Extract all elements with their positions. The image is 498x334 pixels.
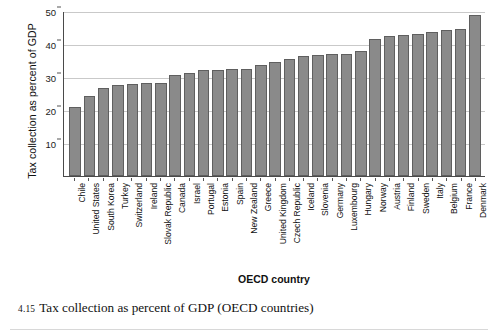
- x-axis-tick-mark: [260, 178, 261, 181]
- x-axis-tick-mark: [446, 178, 447, 181]
- x-axis-tick-mark: [346, 178, 347, 181]
- x-axis-tick-mark: [389, 178, 390, 181]
- x-axis-tick: United Kingdom: [269, 178, 281, 270]
- x-axis-tick: Germany: [326, 178, 338, 270]
- bar: [127, 84, 139, 176]
- x-axis-tick: Portugal: [197, 178, 209, 270]
- x-axis-tick: Slovak Republic: [154, 178, 166, 270]
- bar: [384, 36, 396, 176]
- bar: [269, 62, 281, 176]
- bar: [155, 83, 167, 176]
- x-axis-tick: Iceland: [297, 178, 309, 270]
- bar: [441, 30, 453, 176]
- y-axis-tick-labels: 1020304050: [38, 0, 60, 200]
- x-axis-tick-mark: [117, 178, 118, 181]
- x-axis-tick: Slovenia: [312, 178, 324, 270]
- bar: [412, 34, 424, 176]
- x-axis-tick: Italy: [426, 178, 438, 270]
- x-axis-tick: Greece: [254, 178, 266, 270]
- x-axis-tick-mark: [360, 178, 361, 181]
- x-axis-tick: Chile: [68, 178, 80, 270]
- x-axis-tick: Austria: [383, 178, 395, 270]
- x-axis-tick-mark: [275, 178, 276, 181]
- bar: [312, 55, 324, 176]
- x-axis-tick: Norway: [369, 178, 381, 270]
- y-axis-tick-mark: [57, 73, 61, 74]
- x-axis-tick-mark: [203, 178, 204, 181]
- plot-area: [63, 12, 485, 177]
- bar: [426, 32, 438, 176]
- y-axis-tick-label: 20: [45, 106, 56, 117]
- bar: [112, 85, 124, 176]
- bar: [469, 15, 481, 176]
- x-axis-tick-mark: [317, 178, 318, 181]
- y-axis-tick-mark: [57, 139, 61, 140]
- x-axis-tick: Hungary: [355, 178, 367, 270]
- page-divider: [10, 329, 488, 330]
- x-axis-tick: Spain: [226, 178, 238, 270]
- x-axis-tick: New Zealand: [240, 178, 252, 270]
- x-axis-tick: Switzerland: [126, 178, 138, 270]
- bar: [98, 88, 110, 176]
- x-axis-tick-mark: [403, 178, 404, 181]
- bar: [84, 96, 96, 176]
- x-axis-tick: France: [455, 178, 467, 270]
- x-axis-tick: Czech Republic: [283, 178, 295, 270]
- x-axis-tick: Sweden: [412, 178, 424, 270]
- figure-caption: 4.15Tax collection as percent of GDP (OE…: [18, 300, 480, 316]
- y-axis-tick-mark: [57, 7, 61, 8]
- x-axis-tick: United States: [83, 178, 95, 270]
- bar: [455, 29, 467, 176]
- caption-number: 4.15: [18, 304, 35, 314]
- caption-text: Tax collection as percent of GDP (OECD c…: [39, 300, 313, 315]
- x-axis-tick-mark: [375, 178, 376, 181]
- x-axis-tick-mark: [332, 178, 333, 181]
- bar: [398, 35, 410, 176]
- bar: [226, 69, 238, 176]
- bar: [198, 70, 210, 176]
- x-axis-tick: Canada: [169, 178, 181, 270]
- x-axis-tick: Belgium: [441, 178, 453, 270]
- x-axis-tick-mark: [174, 178, 175, 181]
- x-axis-tick-mark: [131, 178, 132, 181]
- bar: [284, 59, 296, 176]
- x-axis-tick-mark: [461, 178, 462, 181]
- x-axis-tick-mark: [217, 178, 218, 181]
- x-axis-tick: Israel: [183, 178, 195, 270]
- bar: [169, 75, 181, 176]
- bar: [326, 54, 338, 176]
- bar: [341, 54, 353, 176]
- x-axis-tick: Denmark: [469, 178, 481, 270]
- y-axis-tick-label: 30: [45, 73, 56, 84]
- bar: [184, 73, 196, 176]
- x-axis-tick-mark: [189, 178, 190, 181]
- x-axis-tick-label: Denmark: [479, 183, 488, 218]
- x-axis-tick: Ireland: [140, 178, 152, 270]
- y-axis-tick-label: 40: [45, 40, 56, 51]
- x-axis-tick: Turkey: [111, 178, 123, 270]
- x-axis-tick-labels: ChileUnited StatesSouth KoreaTurkeySwitz…: [63, 178, 485, 270]
- x-axis-tick-mark: [232, 178, 233, 181]
- x-axis-tick: Luxembourg: [340, 178, 352, 270]
- x-axis-tick-mark: [74, 178, 75, 181]
- x-axis-tick-mark: [418, 178, 419, 181]
- bar: [69, 107, 81, 176]
- x-axis-tick-mark: [289, 178, 290, 181]
- x-axis-tick-mark: [303, 178, 304, 181]
- x-axis-tick-mark: [246, 178, 247, 181]
- bar: [255, 65, 267, 176]
- y-axis-tick-mark: [57, 40, 61, 41]
- x-axis-tick-mark: [146, 178, 147, 181]
- x-axis-tick-mark: [88, 178, 89, 181]
- bar-series: [64, 12, 485, 176]
- bar: [298, 56, 310, 176]
- x-axis-tick: South Korea: [97, 178, 109, 270]
- bar: [369, 39, 381, 176]
- y-axis-tick-mark: [57, 106, 61, 107]
- bar: [212, 70, 224, 176]
- bar: [141, 83, 153, 176]
- y-axis-tick-label: 50: [45, 7, 56, 18]
- bar: [241, 69, 253, 176]
- x-axis-tick-mark: [103, 178, 104, 181]
- x-axis-tick-mark: [432, 178, 433, 181]
